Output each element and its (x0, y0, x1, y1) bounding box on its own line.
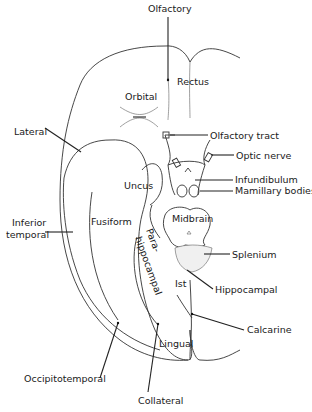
mamillary-body-right (189, 185, 199, 197)
orbital-sulcus (120, 107, 158, 115)
label-occipitotemporal: Occipitotemporal (24, 373, 106, 384)
label-olfactory-tract: Olfactory tract (210, 130, 279, 141)
infundibulum (185, 168, 191, 172)
label-splenium: Splenium (232, 249, 276, 260)
label-olfactory: Olfactory (148, 3, 192, 14)
label-collateral: Collateral (138, 395, 183, 406)
label-calcarine: Calcarine (247, 324, 292, 335)
label-ist: Ist (175, 278, 187, 289)
brain-diagram: Olfactory Rectus Orbital Lateral Olfacto… (0, 0, 312, 412)
label-mamillary-bodies: Mamillary bodies (235, 185, 312, 196)
label-lateral: Lateral (14, 126, 47, 137)
label-rectus: Rectus (177, 76, 209, 87)
isthmus (177, 295, 192, 318)
label-fusiform: Fusiform (91, 216, 132, 227)
label-infundibulum: Infundibulum (235, 174, 298, 185)
label-inferior: Inferior (12, 217, 46, 228)
label-hippocampal: Hippocampal (215, 284, 277, 295)
label-uncus: Uncus (124, 180, 153, 191)
label-orbital: Orbital (125, 91, 157, 102)
label-lingual: Lingual (159, 338, 193, 349)
label-midbrain: Midbrain (172, 213, 213, 224)
label-optic-nerve: Optic nerve (236, 150, 292, 161)
mamillary-body-left (177, 185, 187, 197)
splenium (175, 245, 212, 272)
longitudinal-fissure (168, 78, 169, 120)
occipitotemporal-sulcus (90, 192, 118, 320)
label-temporal: temporal (6, 229, 49, 240)
